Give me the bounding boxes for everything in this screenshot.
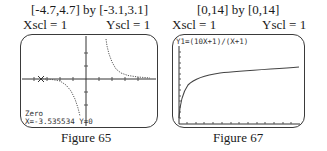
fig67-graph	[0, 0, 327, 151]
fig67-caption: Figure 67	[213, 131, 263, 144]
fig67-function-label: Y1=(10X+1)/(X+1)	[176, 38, 248, 46]
